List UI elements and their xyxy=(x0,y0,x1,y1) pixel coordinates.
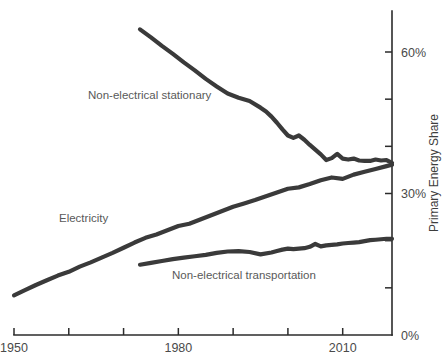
data-series-group xyxy=(14,29,392,295)
series-label-electricity: Electricity xyxy=(59,212,108,224)
x-tick-label-1980: 1980 xyxy=(164,341,192,355)
y-axis-ticks xyxy=(385,52,392,288)
series-line-non-electrical-transportation xyxy=(140,239,392,265)
y-tick-label-60: 60% xyxy=(401,46,426,60)
y-axis-title: Primary Energy Share xyxy=(427,114,441,232)
chart-figure: 195019802010 0%30%60% Non-electrical sta… xyxy=(0,0,446,358)
x-axis-tick-labels: 195019802010 xyxy=(0,341,357,355)
x-tick-label-1950: 1950 xyxy=(0,341,28,355)
y-tick-label-0: 0% xyxy=(401,329,419,343)
y-axis-tick-labels: 0%30%60% xyxy=(401,46,426,343)
x-axis-ticks xyxy=(14,328,343,335)
y-tick-label-30: 30% xyxy=(401,187,426,201)
axes-group xyxy=(14,11,392,335)
chart-canvas: 195019802010 0%30%60% Non-electrical sta… xyxy=(0,0,446,358)
series-label-non-electrical-transportation: Non-electrical transportation xyxy=(172,269,316,281)
series-label-non-electrical-stationary: Non-electrical stationary xyxy=(88,89,212,101)
x-tick-label-2010: 2010 xyxy=(329,341,357,355)
